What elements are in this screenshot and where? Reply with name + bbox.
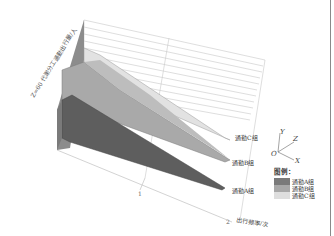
triad-y: Y — [280, 128, 286, 136]
legend-title: 图例： — [274, 167, 295, 176]
series-a-label: 通勤A组 — [232, 187, 254, 195]
legend: 图例： 通勤A组 通勤B组 通勤C组 — [274, 167, 315, 200]
chart-figure: Z=60 代谢分工通勤出行量/人 1 2 通勤C组 通勤B组 通勤A组 出行频率… — [0, 0, 334, 236]
triad-x: X — [294, 157, 301, 165]
triad-o: O — [271, 150, 277, 158]
x-tick-1: 1 — [138, 190, 142, 197]
page-border — [330, 0, 331, 236]
series-b-label: 通勤B组 — [232, 159, 254, 167]
legend-label-c: 通勤C组 — [292, 192, 315, 200]
legend-swatch-a — [274, 178, 290, 185]
axis-triad — [278, 133, 294, 160]
legend-swatch-c — [274, 192, 290, 199]
x-axis-label: 出行频率/次 — [236, 216, 269, 228]
series-c-label: 通勤C组 — [235, 134, 258, 142]
triad-z: Z — [292, 135, 298, 143]
legend-swatch-b — [274, 185, 290, 192]
x-tick-2: 2 — [226, 218, 230, 225]
